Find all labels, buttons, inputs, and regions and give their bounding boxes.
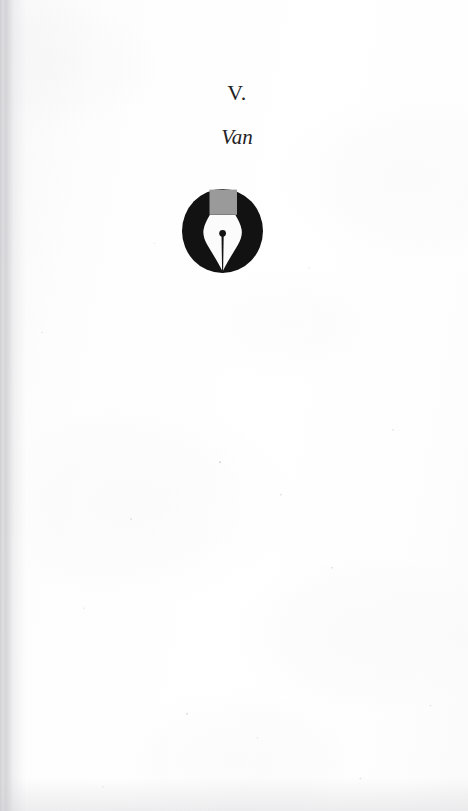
chapter-title: Van — [0, 127, 468, 148]
fountain-pen-nib-emblem — [182, 189, 263, 273]
page-canvas: V. Van — [0, 0, 468, 811]
nib-grip-section — [210, 190, 238, 215]
page-content: V. Van — [0, 0, 468, 811]
chapter-number: V. — [0, 82, 468, 104]
